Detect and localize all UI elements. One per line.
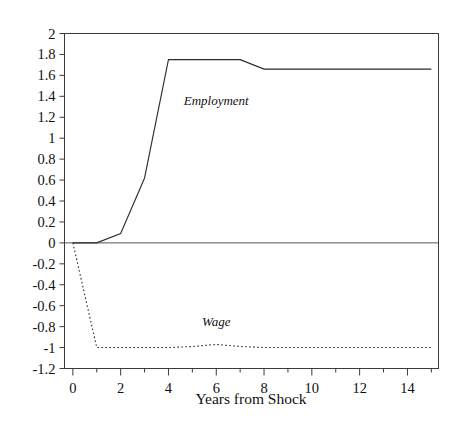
x-tick-label: 12 bbox=[352, 380, 367, 396]
y-tick-label: -0.8 bbox=[33, 319, 56, 335]
x-tick-label: 2 bbox=[117, 380, 124, 396]
y-tick-label: 0.2 bbox=[37, 214, 55, 230]
x-tick-label: 14 bbox=[400, 380, 415, 396]
y-tick-label: -0.4 bbox=[33, 277, 57, 293]
x-tick-label: 4 bbox=[165, 380, 173, 396]
y-tick-label: 1.4 bbox=[37, 88, 56, 104]
x-axis-title: Years from Shock bbox=[195, 390, 306, 407]
y-tick-label: 0 bbox=[48, 235, 55, 251]
y-tick-label: 1.2 bbox=[37, 109, 55, 125]
employment-series-label: Employment bbox=[183, 93, 249, 108]
chart-background bbox=[0, 0, 462, 427]
wage-series-label: Wage bbox=[202, 314, 231, 329]
y-tick-label: 2 bbox=[48, 26, 55, 42]
y-tick-label: -1.2 bbox=[33, 361, 56, 377]
x-tick-label: 0 bbox=[69, 380, 76, 396]
impulse-response-chart: -1.2-1-0.8-0.6-0.4-0.200.20.40.60.811.21… bbox=[0, 0, 462, 427]
y-tick-label: 0.4 bbox=[37, 193, 56, 209]
y-tick-label: -1 bbox=[43, 340, 55, 356]
x-tick-label: 10 bbox=[305, 380, 320, 396]
y-tick-label: 0.6 bbox=[37, 172, 55, 188]
y-tick-label: 0.8 bbox=[37, 151, 55, 167]
y-tick-label: -0.6 bbox=[33, 298, 56, 314]
y-tick-label: 1.8 bbox=[37, 46, 55, 62]
y-tick-label: 1.6 bbox=[37, 67, 55, 83]
y-tick-label: -0.2 bbox=[33, 256, 56, 272]
y-tick-label: 1 bbox=[48, 130, 55, 146]
